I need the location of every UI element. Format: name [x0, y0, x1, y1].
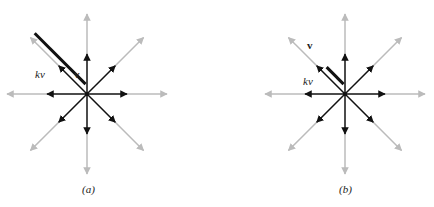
kv-segment — [327, 67, 344, 84]
figure: vkv vkv — [0, 0, 434, 207]
light-arrow-315 — [115, 122, 143, 150]
light-arrow-315 — [373, 122, 401, 150]
light-arrow-225 — [288, 122, 316, 150]
dark-arrow-315 — [87, 94, 115, 122]
light-arrow-45 — [115, 37, 143, 65]
light-arrow-45 — [373, 37, 401, 65]
v-label: v — [307, 39, 313, 51]
dark-arrow-45 — [87, 66, 115, 94]
v-label: v — [74, 68, 80, 80]
light-arrow-225 — [30, 122, 58, 150]
kv-label: kv — [303, 75, 313, 87]
caption-b: (b) — [339, 183, 352, 195]
origin-dot — [85, 92, 89, 96]
dark-arrow-45 — [345, 66, 373, 94]
caption-a: (a) — [82, 183, 95, 195]
panel-b: vkv — [265, 14, 425, 174]
panel-a: vkv — [7, 14, 167, 174]
dark-arrow-225 — [317, 94, 345, 122]
origin-dot — [343, 92, 347, 96]
dark-arrow-225 — [59, 94, 87, 122]
dark-arrow-315 — [345, 94, 373, 122]
kv-label: kv — [35, 68, 45, 80]
